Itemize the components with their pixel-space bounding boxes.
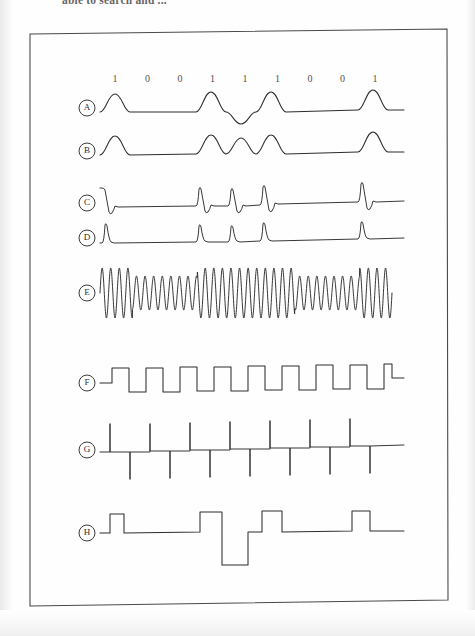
scanned-page: able to search and ... <box>0 0 475 636</box>
trace-label-h: H <box>79 525 96 542</box>
trace-d-waveform <box>100 222 404 243</box>
trace-label-c: C <box>79 195 96 212</box>
trace-label-f: F <box>79 375 96 392</box>
trace-b-waveform <box>100 132 404 155</box>
trace-label-a: A <box>79 100 96 117</box>
trace-g-waveform <box>100 419 404 479</box>
trace-label-b: B <box>79 143 96 160</box>
trace-label-g: G <box>79 442 96 459</box>
trace-label-e: E <box>79 285 96 302</box>
trace-f-waveform <box>100 364 404 392</box>
figure-panel <box>0 0 475 636</box>
trace-a-waveform <box>100 90 404 124</box>
trace-label-d: D <box>79 230 96 247</box>
trace-h-waveform <box>100 511 404 565</box>
trace-e-waveform <box>100 268 392 318</box>
figure-border <box>30 29 448 606</box>
trace-c-waveform <box>100 183 404 214</box>
